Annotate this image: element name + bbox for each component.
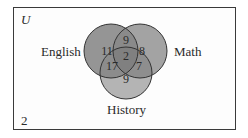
set-label-math: Math [174, 45, 201, 58]
universe-label: U [21, 13, 30, 26]
region-all-three: 2 [123, 50, 129, 62]
outside-count: 2 [21, 114, 28, 127]
region-history-only: 9 [123, 73, 129, 85]
region-english-only: 11 [101, 45, 113, 57]
region-math-history: 7 [136, 60, 142, 72]
set-label-history: History [107, 103, 146, 116]
region-english-math: 9 [123, 34, 129, 46]
venn-diagram [0, 0, 248, 138]
set-label-english: English [41, 45, 81, 58]
region-english-history: 17 [106, 60, 118, 72]
region-math-only: 8 [139, 45, 145, 57]
